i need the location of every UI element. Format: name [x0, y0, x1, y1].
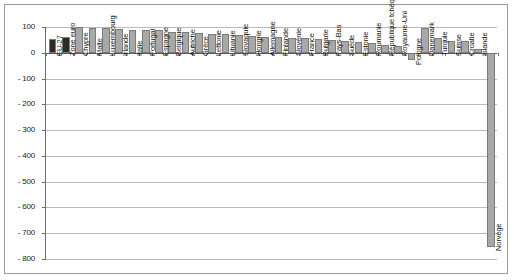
- x-category-label: Turquie: [440, 31, 449, 55]
- x-category-label: Royaume-Uni: [400, 11, 409, 56]
- x-category-label: Suède: [347, 35, 356, 56]
- x-category-label: République tchèque: [387, 0, 396, 56]
- x-category-label: Malte: [95, 38, 104, 56]
- x-category-label: Chypre: [81, 32, 90, 56]
- x-category-label: Pologne: [414, 38, 423, 65]
- x-category-label: Roumanie: [374, 22, 383, 55]
- x-category-label: Estonie: [361, 31, 370, 55]
- x-category-label: Bulgarie: [321, 29, 330, 56]
- y-tick-label: - 100: [7, 74, 35, 83]
- y-tick-label: - 700: [7, 228, 35, 237]
- x-category-label: Italie: [135, 41, 144, 56]
- x-category-label: Croatie: [467, 32, 476, 55]
- x-category-label: Zone euro: [68, 22, 77, 55]
- x-category-label: Espagne: [161, 27, 170, 56]
- y-tick-label: 0: [7, 48, 35, 57]
- x-category-label: Danemark: [427, 22, 436, 56]
- x-category-label: Finlande: [281, 28, 290, 56]
- x-category-label: Pays-Bas: [334, 24, 343, 55]
- bar: [487, 53, 495, 248]
- x-category-label: Norvège: [494, 224, 503, 252]
- y-tick-label: - 800: [7, 254, 35, 263]
- y-tick-label: - 500: [7, 177, 35, 186]
- chart-plot-wrapper: 1000- 100- 200- 300- 400- 500- 600- 700-…: [5, 5, 509, 275]
- x-category-label: Slovaquie: [241, 24, 250, 56]
- x-category-label: Lettonie: [214, 30, 223, 56]
- x-category-label: Autriche: [188, 29, 197, 56]
- x-category-label: Luxembourg: [108, 15, 117, 56]
- y-tick-label: - 400: [7, 151, 35, 160]
- y-tick-label: - 300: [7, 125, 35, 134]
- plot-area: [45, 27, 497, 259]
- y-tick-label: 100: [7, 22, 35, 31]
- x-category-label: Irlande: [121, 34, 130, 56]
- y-tick-label: - 200: [7, 99, 35, 108]
- y-tick-label: - 600: [7, 202, 35, 211]
- gridline: [46, 259, 497, 260]
- chart-frame: 1000- 100- 200- 300- 400- 500- 600- 700-…: [4, 4, 508, 274]
- x-category-label: Portugal: [148, 29, 157, 56]
- x-category-label: Slovénie: [294, 28, 303, 56]
- x-tickmark: [498, 53, 499, 56]
- bar-series: [46, 27, 497, 259]
- x-category-label: France: [307, 33, 316, 56]
- x-category-label: EU-27: [55, 35, 64, 56]
- x-category-label: Allemagne: [268, 21, 277, 56]
- x-category-label: Lituanie: [228, 30, 237, 55]
- x-category-label: Grèce: [201, 36, 210, 56]
- x-category-label: Suisse: [454, 34, 463, 56]
- x-category-label: Islande: [480, 32, 489, 56]
- x-category-label: Hongrie: [254, 30, 263, 56]
- y-tickmark: [42, 259, 46, 260]
- x-category-label: Belgique: [174, 27, 183, 55]
